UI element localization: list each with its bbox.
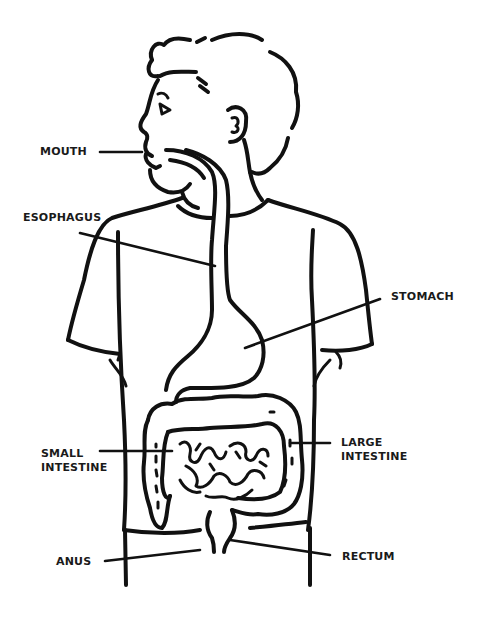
- label-mouth: MOUTH: [40, 145, 87, 159]
- label-stomach: STOMACH: [391, 290, 454, 304]
- label-rectum: RECTUM: [342, 550, 395, 564]
- digestive-system-diagram: MOUTH ESOPHAGUS STOMACH SMALL INTESTINE …: [0, 0, 480, 626]
- rectum-leader-line: [230, 540, 330, 555]
- label-anus: ANUS: [56, 555, 91, 569]
- esophagus-leader-line: [80, 233, 215, 266]
- label-large-intestine: LARGE INTESTINE: [341, 436, 407, 464]
- label-esophagus: ESOPHAGUS: [23, 211, 101, 225]
- intestines-outline: [143, 395, 302, 552]
- label-small-intestine: SMALL INTESTINE: [41, 447, 107, 475]
- boy-illustration: [0, 0, 480, 626]
- esophagus-stomach-outline: [166, 150, 264, 402]
- head-outline: [140, 34, 298, 200]
- anus-leader-line: [105, 550, 200, 561]
